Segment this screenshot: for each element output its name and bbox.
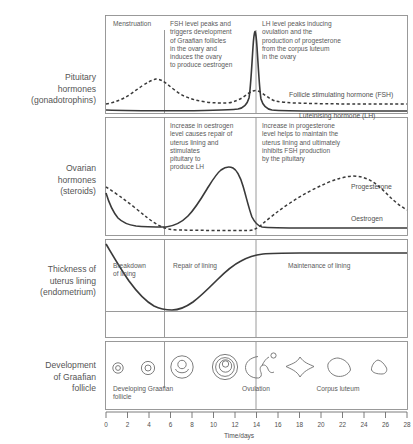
panel-frames <box>106 16 408 410</box>
mature-graafian-follicle-icon <box>212 354 237 379</box>
x-tick-6: 6 <box>164 421 178 428</box>
x-tick-18: 18 <box>293 421 307 428</box>
x-axis-title: Time/days <box>224 432 254 439</box>
developing-graafian-follicle-icon <box>171 356 193 378</box>
x-tick-12: 12 <box>228 421 242 428</box>
caption-maintenance: Maintenance of lining <box>288 262 380 270</box>
x-tick-8: 8 <box>185 421 199 428</box>
corpus-luteum-mid-icon <box>328 358 351 376</box>
series-label-progesterone: Progesterone <box>351 183 392 190</box>
x-tick-10: 10 <box>207 421 221 428</box>
caption-oestrogen-note: Increase in oestrogen level causes repai… <box>170 122 254 172</box>
caption-lh-note: LH level peaks inducing ovulation and th… <box>262 20 372 61</box>
x-axis <box>106 412 407 418</box>
x-tick-28: 28 <box>400 421 413 428</box>
series-label-oestrogen: Oestrogen <box>351 215 383 222</box>
caption-ovulation: Ovulation <box>226 385 286 393</box>
phase-dividers <box>165 30 257 409</box>
caption-breakdown: Breakdown of lining <box>113 262 165 279</box>
follicle-icon-group <box>113 353 387 380</box>
x-tick-4: 4 <box>142 421 156 428</box>
corpus-albicans-icon <box>371 360 386 374</box>
series-label-fsh: Follicle stimulating hormone (FSH) <box>289 91 393 98</box>
series-label-lh: Luteinising hormone (LH) <box>299 112 375 119</box>
caption-developing-follicle: Developing Graafian follicle <box>113 385 211 402</box>
caption-fsh-note: FSH level peaks and triggers development… <box>170 20 254 70</box>
x-tick-2: 2 <box>121 421 135 428</box>
caption-corpus-luteum: Corpus luteum <box>300 385 376 393</box>
x-tick-24: 24 <box>357 421 371 428</box>
caption-menstruation: Menstruation <box>113 20 165 28</box>
panel-frame-uterus <box>106 240 408 338</box>
primordial-follicle-icon <box>113 363 123 373</box>
caption-progesterone-note: Increase in progesterone level helps to … <box>262 122 362 163</box>
x-tick-26: 26 <box>379 421 393 428</box>
x-tick-22: 22 <box>336 421 350 428</box>
corpus-luteum-early-icon <box>286 357 314 377</box>
ovulation-icon <box>246 353 277 378</box>
primary-follicle-icon <box>141 361 154 374</box>
caption-repair: Repair of lining <box>173 262 251 270</box>
x-tick-20: 20 <box>314 421 328 428</box>
x-tick-14: 14 <box>250 421 264 428</box>
x-tick-0: 0 <box>99 421 113 428</box>
x-tick-16: 16 <box>271 421 285 428</box>
menstrual-cycle-figure: Pituitary hormones (gonadotrophins) Ovar… <box>0 0 413 444</box>
